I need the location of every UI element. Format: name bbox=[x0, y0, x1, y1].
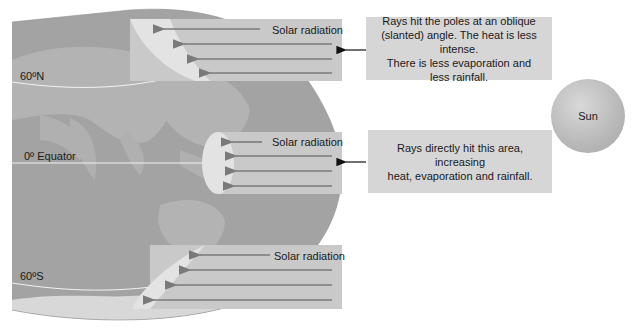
poles-callout-line: (slanted) angle. The heat is less intens… bbox=[370, 28, 548, 56]
south-band-label: Solar radiation bbox=[274, 250, 345, 262]
equator-band-label: Solar radiation bbox=[272, 136, 343, 148]
equator-callout-line: Rays directly hit this area, increasing bbox=[372, 141, 548, 169]
poles-callout-line: less rainfall. bbox=[430, 70, 488, 84]
north-band-label: Solar radiation bbox=[272, 24, 343, 36]
latitude-label-60n: 60ºN bbox=[20, 70, 44, 82]
poles-callout: Rays hit the poles at an oblique (slante… bbox=[366, 17, 552, 80]
sun: Sun bbox=[551, 79, 625, 153]
poles-callout-line: There is less evaporation and bbox=[387, 56, 531, 70]
sun-label: Sun bbox=[578, 110, 598, 122]
equator-callout: Rays directly hit this area, increasing … bbox=[368, 130, 552, 193]
latitude-label-equator: 0º Equator bbox=[24, 150, 76, 162]
equator-impact-area bbox=[202, 132, 234, 194]
poles-callout-line: Rays hit the poles at an oblique bbox=[382, 14, 536, 28]
solar-radiation-diagram: 60ºN 0º Equator 60ºS Solar radiation Sol… bbox=[0, 0, 632, 331]
equator-callout-line: heat, evaporation and rainfall. bbox=[388, 169, 533, 183]
latitude-label-60s: 60ºS bbox=[20, 270, 44, 282]
